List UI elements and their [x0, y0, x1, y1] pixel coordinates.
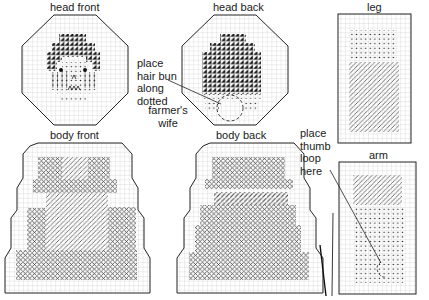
note-hair-bun: place hair bun along dotted — [137, 57, 177, 107]
label-body-front: body front — [50, 129, 99, 141]
note-thumb-loop-line-1: place — [300, 127, 331, 140]
arm-piece — [330, 162, 416, 294]
note-hair-bun-line-2: hair bun — [137, 70, 177, 83]
label-body-back: body back — [216, 129, 266, 141]
head-front-piece — [22, 15, 128, 125]
label-head-front: head front — [50, 1, 100, 13]
note-thumb-loop-line-3: loop — [300, 152, 331, 165]
label-head-back: head back — [213, 1, 264, 13]
title-line-2: wife — [143, 117, 193, 130]
note-thumb-loop-line-4: here — [300, 165, 331, 178]
pattern-chart — [0, 0, 429, 300]
note-hair-bun-line-1: place — [137, 57, 177, 70]
note-hair-bun-line-4: dotted — [137, 95, 177, 108]
note-thumb-loop-line-2: thumb — [300, 140, 331, 153]
body-front-piece — [5, 143, 150, 293]
label-leg: leg — [367, 1, 382, 13]
note-hair-bun-line-3: along — [137, 82, 177, 95]
note-thumb-loop: place thumb loop here — [300, 127, 331, 177]
title-farmers-wife: farmer's wife — [143, 104, 193, 129]
label-arm: arm — [369, 149, 388, 161]
leg-piece — [338, 14, 411, 143]
